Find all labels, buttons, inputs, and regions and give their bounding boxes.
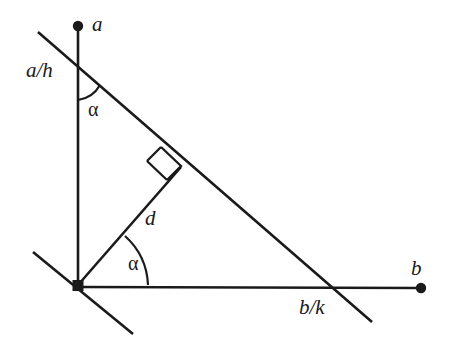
angle-upper-label: α (88, 99, 98, 119)
vertex-a-dot (73, 21, 83, 31)
origin-marker (73, 280, 84, 291)
right-angle-mark-leg-2 (147, 161, 167, 180)
right-angle-mark-leg (147, 147, 161, 161)
geometry-diagram: a a/h α d α b b/k (0, 0, 449, 359)
perpendicular-helper-line (33, 252, 133, 334)
line-a-over-h-label: a/h (26, 60, 53, 81)
hypotenuse-line (38, 32, 372, 322)
distance-d-label: d (145, 208, 156, 229)
vertex-b-dot (416, 283, 426, 293)
vertex-b-label: b (411, 258, 422, 279)
horizontal-axis-line (78, 287, 421, 288)
line-b-over-k-label: b/k (299, 297, 325, 318)
angle-lower-label: α (128, 253, 138, 273)
diagram-canvas (0, 0, 449, 359)
vertex-a-label: a (92, 14, 103, 35)
